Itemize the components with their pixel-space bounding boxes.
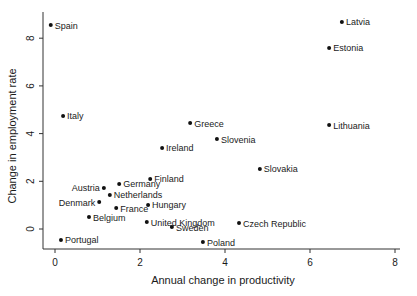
- point-label: Austria: [72, 183, 100, 193]
- x-tick-label: 6: [307, 257, 313, 268]
- data-point: Ireland: [160, 143, 194, 153]
- point-label: Slovenia: [221, 135, 256, 145]
- data-point: Estonia: [327, 43, 363, 53]
- point-marker: [188, 121, 192, 125]
- point-marker: [145, 220, 149, 224]
- x-axis-label: Annual change in productivity: [151, 274, 295, 286]
- point-label: Belgium: [93, 213, 126, 223]
- point-marker: [114, 206, 118, 210]
- point-label: Czech Republic: [243, 219, 307, 229]
- x-tick-label: 8: [392, 257, 398, 268]
- y-tick-label: 8: [25, 35, 36, 41]
- point-marker: [340, 20, 344, 24]
- data-point: Slovakia: [258, 164, 298, 174]
- y-tick-label: 6: [25, 83, 36, 89]
- point-marker: [327, 123, 331, 127]
- point-label: Latvia: [346, 17, 370, 27]
- point-label: Estonia: [333, 43, 363, 53]
- point-label: Slovakia: [264, 164, 298, 174]
- data-point: Lithuania: [327, 121, 370, 131]
- y-tick-label: 4: [25, 130, 36, 136]
- data-point: Greece: [188, 119, 224, 129]
- point-marker: [97, 200, 101, 204]
- point-label: Hungary: [152, 200, 187, 210]
- y-axis: 02468: [25, 12, 43, 249]
- point-label: Spain: [55, 21, 78, 31]
- point-label: Poland: [207, 238, 235, 248]
- data-point: Hungary: [146, 200, 187, 210]
- x-axis: 02468: [43, 249, 400, 268]
- data-point: Latvia: [340, 17, 370, 27]
- data-point: Slovenia: [215, 135, 256, 145]
- data-point: Sweden: [170, 223, 209, 233]
- data-point: Italy: [61, 111, 84, 121]
- point-label: Portugal: [65, 235, 99, 245]
- point-marker: [49, 23, 53, 27]
- point-marker: [201, 240, 205, 244]
- point-marker: [215, 137, 219, 141]
- point-label: Germany: [123, 179, 161, 189]
- point-marker: [160, 146, 164, 150]
- point-marker: [170, 225, 174, 229]
- point-marker: [59, 238, 63, 242]
- point-label: Denmark: [59, 198, 96, 208]
- point-marker: [108, 193, 112, 197]
- data-point: Austria: [72, 183, 106, 193]
- y-tick-label: 2: [25, 178, 36, 184]
- y-tick-label: 0: [25, 226, 36, 232]
- data-point: Poland: [201, 238, 235, 248]
- point-label: Italy: [67, 111, 84, 121]
- x-tick-label: 4: [222, 257, 228, 268]
- data-point: Germany: [117, 179, 161, 189]
- y-axis-label: Change in employment rate: [6, 68, 18, 203]
- data-point: Belgium: [87, 213, 126, 223]
- point-label: Lithuania: [333, 121, 370, 131]
- point-marker: [117, 182, 121, 186]
- point-marker: [102, 186, 106, 190]
- data-point: Spain: [49, 21, 78, 31]
- data-points: SpainLatviaEstoniaItalyGreeceLithuaniaSl…: [49, 17, 370, 247]
- point-label: Greece: [194, 119, 224, 129]
- scatter-chart: 02468 02468 SpainLatviaEstoniaItalyGreec…: [0, 0, 417, 296]
- data-point: Netherlands: [108, 190, 163, 200]
- x-tick-label: 2: [137, 257, 143, 268]
- data-point: Portugal: [59, 235, 99, 245]
- data-point: Czech Republic: [237, 219, 307, 229]
- point-marker: [258, 167, 262, 171]
- point-marker: [237, 221, 241, 225]
- point-marker: [327, 46, 331, 50]
- point-marker: [87, 215, 91, 219]
- point-marker: [61, 114, 65, 118]
- data-point: Denmark: [59, 198, 102, 208]
- x-tick-label: 0: [52, 257, 58, 268]
- point-label: Netherlands: [114, 190, 163, 200]
- point-label: Sweden: [176, 223, 209, 233]
- point-label: Ireland: [166, 143, 194, 153]
